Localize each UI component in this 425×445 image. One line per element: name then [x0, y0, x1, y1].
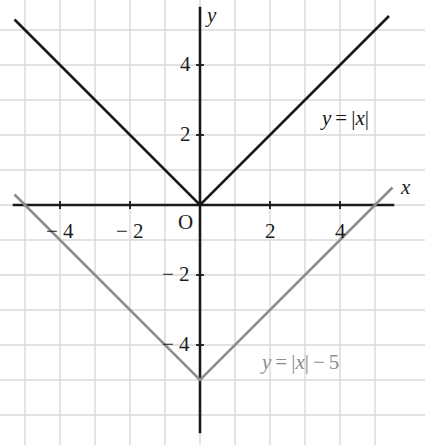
- y-tick-label-minus-2: − 2: [162, 264, 190, 285]
- graph-figure: − 4 − 2 2 4 4 2 − 2 − 4 x y O y=|x| y=|x…: [0, 0, 425, 445]
- fn2-rhs-var: x: [295, 350, 304, 374]
- y-axis-name: y: [207, 5, 216, 26]
- curve-label-y-equals-abs-x-minus-5: y=|x|−5: [262, 352, 339, 373]
- fn2-constant: 5: [329, 350, 340, 374]
- fn2-lhs: y: [262, 350, 271, 374]
- y-tick-label-4: 4: [180, 54, 191, 75]
- curve-label-y-equals-abs-x: y=|x|: [322, 108, 369, 129]
- y-tick-label-minus-4: − 4: [162, 334, 190, 355]
- fn1-lhs: y: [322, 106, 331, 130]
- x-tick-label-minus-2: − 2: [116, 221, 144, 242]
- y-tick-label-2: 2: [180, 124, 191, 145]
- fn1-equals: =: [331, 106, 351, 130]
- fn1-bar-close: |: [365, 106, 369, 130]
- fn2-equals: =: [271, 350, 291, 374]
- x-tick-label-minus-4: − 4: [46, 221, 74, 242]
- fn1-rhs-var: x: [355, 106, 364, 130]
- x-axis-name: x: [401, 177, 410, 198]
- fn2-minus: −: [309, 350, 329, 374]
- x-tick-label-4: 4: [335, 221, 346, 242]
- origin-label: O: [178, 212, 193, 233]
- x-tick-label-2: 2: [265, 221, 276, 242]
